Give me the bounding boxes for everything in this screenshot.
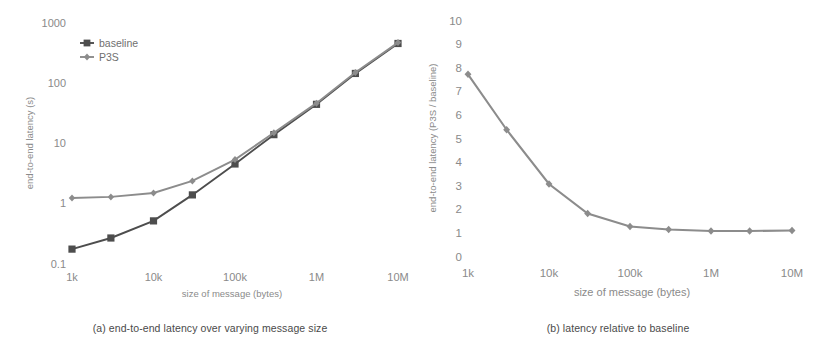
chart-a-datapoint [150,217,157,224]
chart-b-ytick-label: 0 [456,251,462,263]
chart-b-xtick-label: 10k [540,267,559,279]
chart-b-ytick-label: 7 [456,85,462,97]
chart-b-datapoint [665,226,672,234]
chart-panel-b: 0123456789101k10k100k1M10Msize of messag… [420,0,816,354]
chart-a-datapoint [150,190,156,197]
chart-a-series-line-p3s [72,43,398,198]
chart-a-xtick-label: 1M [309,271,324,283]
chart-a-xaxis-title: size of message (bytes) [182,288,282,299]
chart-a-datapoint [68,246,75,253]
chart-b-xaxis-title: size of message (bytes) [574,286,690,298]
chart-b-xtick-label: 1M [703,267,719,279]
chart-a-ytick-label: 10 [54,137,66,149]
chart-b-canvas: 0123456789101k10k100k1M10Msize of messag… [420,0,816,312]
chart-b-datapoint [746,227,753,235]
chart-b-datapoint [789,227,796,235]
chart-b-ytick-label: 5 [456,133,462,145]
chart-a-ytick-label: 1000 [42,17,66,29]
chart-a-canvas: 0.111010010001k10k100k1M10Msize of messa… [0,0,420,312]
chart-a-yaxis-title: end-to-end latency (s) [24,97,35,189]
chart-a-datapoint [107,234,114,241]
chart-a-xtick-label: 100k [223,271,247,283]
chart-a-legend-marker-1 [84,54,90,61]
chart-b-ytick-label: 1 [456,227,462,239]
chart-a-ytick-label: 1 [60,197,66,209]
chart-a-xtick-label: 1k [66,271,78,283]
chart-b-datapoint [708,227,715,235]
chart-b-xtick-label: 10M [781,267,803,279]
chart-a-ytick-label: 100 [48,77,66,89]
chart-panel-a: 0.111010010001k10k100k1M10Msize of messa… [0,0,420,354]
chart-a-datapoint [189,177,195,184]
chart-b-ytick-label: 9 [456,38,462,50]
chart-a-series-line-baseline [72,43,398,249]
chart-b-ytick-label: 4 [456,156,463,168]
chart-a-xtick-label: 10k [145,271,163,283]
chart-b-yaxis-title: end-to-end latency (P3S / baseline) [427,64,438,213]
chart-b-datapoint [627,223,634,231]
chart-a-legend-label-1: P3S [99,51,119,63]
chart-b-caption: (b) latency relative to baseline [420,322,816,334]
figure-two-panel-latency-charts: 0.111010010001k10k100k1M10Msize of messa… [0,0,816,354]
chart-b-series-line [468,74,792,231]
chart-a-ytick-label: 0.1 [51,258,66,270]
chart-b-ytick-label: 6 [456,109,462,121]
chart-a-datapoint [189,191,196,198]
chart-b-ytick-label: 10 [449,15,462,27]
chart-b-ytick-label: 8 [456,62,462,74]
chart-a-datapoint [69,194,75,201]
chart-b-xtick-label: 1k [462,267,474,279]
chart-b-ytick-label: 2 [456,203,462,215]
chart-b-xtick-label: 100k [618,267,643,279]
chart-b-ytick-label: 3 [456,180,462,192]
chart-a-caption: (a) end-to-end latency over varying mess… [0,322,420,334]
chart-a-legend-label-0: baseline [99,37,138,49]
chart-a-datapoint [108,193,114,200]
chart-a-xtick-label: 10M [387,271,408,283]
chart-a-legend-marker-0 [84,40,91,47]
